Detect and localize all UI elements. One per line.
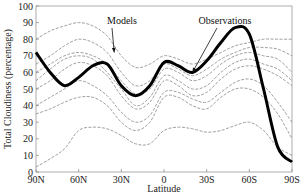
plot-frame: [36, 6, 292, 172]
x-tick-label: 90S: [284, 174, 300, 185]
y-tick-label: 80: [23, 34, 33, 45]
x-tick-label: 30N: [113, 174, 130, 185]
y-tick-label: 70: [23, 50, 33, 61]
y-tick-label: 50: [23, 84, 33, 95]
x-tick-label: 60S: [242, 174, 258, 185]
x-axis-title: Latitude: [147, 183, 181, 194]
y-axis-title: Total Cloudiness (percentage): [2, 29, 14, 149]
model-line: [36, 122, 292, 167]
y-tick-label: 100: [18, 1, 33, 12]
x-tick-label: 90N: [27, 174, 44, 185]
x-tick-label: 60N: [70, 174, 87, 185]
annotations: ModelsObservations: [107, 15, 251, 72]
model-line: [36, 88, 292, 139]
y-tick-label: 60: [23, 67, 33, 78]
annotation-label: Observations: [199, 15, 252, 26]
x-tick-label: 30S: [199, 174, 215, 185]
cloudiness-chart: 0102030405060708090100 90N60N30N030S60S9…: [0, 0, 305, 195]
annotation-label: Models: [107, 15, 137, 26]
observations-line: [36, 26, 292, 162]
y-tick-label: 90: [23, 17, 33, 28]
y-tick-label: 30: [23, 117, 33, 128]
series-group: [36, 23, 292, 167]
y-tick-label: 40: [23, 100, 33, 111]
y-tick-label: 20: [23, 133, 33, 144]
model-line: [36, 79, 292, 122]
model-line: [36, 52, 292, 94]
y-tick-label: 10: [23, 150, 33, 161]
